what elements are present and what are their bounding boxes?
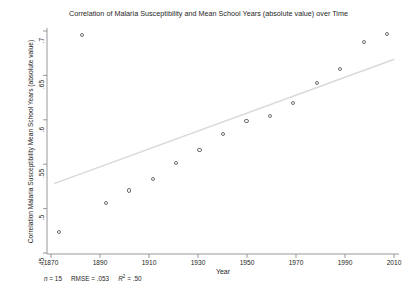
y-tick-label: .55 <box>38 165 45 183</box>
data-point-marker <box>315 81 319 85</box>
n-value: = 15 <box>49 275 62 282</box>
y-tick-label: .6 <box>38 121 45 139</box>
y-tick-label: .65 <box>38 76 45 94</box>
n-symbol: n <box>44 275 48 282</box>
regression-fit-line <box>54 59 394 183</box>
x-tick-label: 1990 <box>325 259 365 266</box>
x-tick-label: 1930 <box>178 259 218 266</box>
data-point-marker <box>104 201 108 205</box>
data-point-marker <box>362 40 366 44</box>
data-point-marker <box>268 114 272 118</box>
data-point-marker <box>127 188 131 192</box>
x-tick-label: 1870 <box>31 259 71 266</box>
rmse-stat: RMSE = .053 <box>71 275 109 282</box>
x-tick-label: 2010 <box>374 259 414 266</box>
sample-size-stat: n = 15 <box>44 275 62 282</box>
rmse-value: = .053 <box>91 275 109 282</box>
rmse-label: RMSE <box>71 275 89 282</box>
x-tick-label: 1910 <box>129 259 169 266</box>
y-tick-label: .7 <box>38 32 45 50</box>
data-point-marker <box>151 177 155 181</box>
data-point-marker <box>197 148 201 152</box>
y-tick-label: .5 <box>38 209 45 227</box>
statistics-footnote: n = 15RMSE = .053R2 = .50 <box>44 274 151 282</box>
data-point-marker <box>244 119 248 123</box>
x-tick-label: 1890 <box>80 259 120 266</box>
r-squared-value: = .50 <box>127 275 141 282</box>
axis-and-data-layer <box>0 0 417 297</box>
x-tick-label: 1970 <box>276 259 316 266</box>
r-squared-exponent: 2 <box>123 274 126 279</box>
data-point-marker <box>174 161 178 165</box>
r-squared-stat: R2 = .50 <box>118 275 141 282</box>
chart-figure: Correlation of Malaria Susceptibility an… <box>0 0 417 297</box>
x-tick-label: 1950 <box>227 259 267 266</box>
